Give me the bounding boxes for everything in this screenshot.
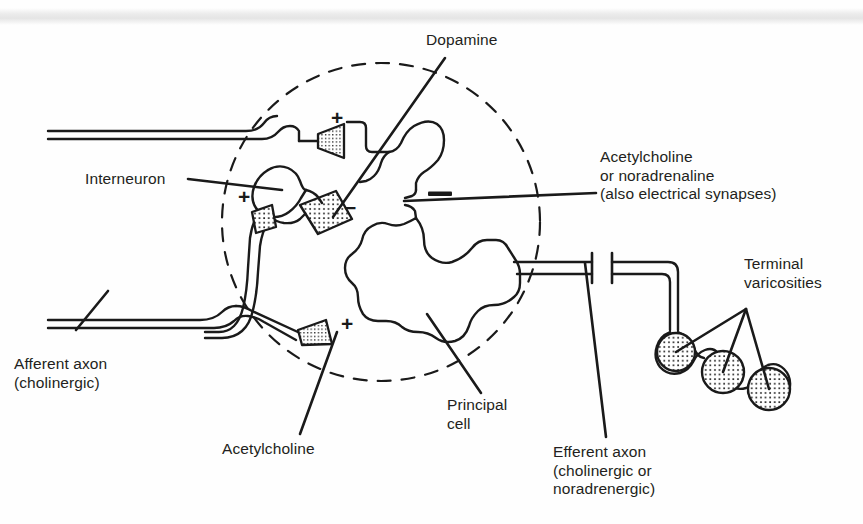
leader-afferent-axon (76, 291, 108, 330)
afferent-axon-lower (48, 306, 300, 340)
dendrite-inhibitory-marker (428, 192, 452, 197)
label-afferent-axon: Afferent axon (cholinergic) (14, 355, 107, 392)
efferent-axon (514, 253, 678, 330)
synaptic-bouton-upper (318, 124, 344, 158)
synaptic-bouton-lower-excitatory (298, 320, 332, 345)
diagram-page: Dopamine Interneuron Acetylcholine or no… (0, 0, 863, 524)
label-dopamine: Dopamine (426, 31, 497, 50)
sign-interneuron-inhibitory: − (344, 197, 356, 218)
label-principal-cell: Principal cell (447, 396, 507, 433)
label-terminal-varicosities: Terminal varicosities (744, 255, 822, 292)
afferent-axon-upper (48, 116, 322, 141)
label-interneuron: Interneuron (85, 170, 165, 189)
sign-interneuron-excitatory: + (238, 186, 250, 207)
sign-top-excitatory: + (331, 107, 343, 128)
label-acetylcholine: Acetylcholine (222, 440, 315, 459)
label-acetylcholine-or-noradrenaline: Acetylcholine or noradrenaline (also ele… (600, 148, 777, 204)
principal-cell-upper-process (360, 121, 444, 190)
leader-acetylcholine (300, 332, 337, 434)
leader-interneuron (188, 179, 282, 190)
leader-efferent-axon (585, 263, 606, 437)
sign-bottom-excitatory: + (341, 313, 353, 334)
ganglion-diagram-svg (0, 0, 863, 524)
principal-cell-dendrite-neck (405, 190, 416, 218)
label-efferent-axon: Efferent axon (cholinergic or noradrener… (553, 443, 655, 499)
